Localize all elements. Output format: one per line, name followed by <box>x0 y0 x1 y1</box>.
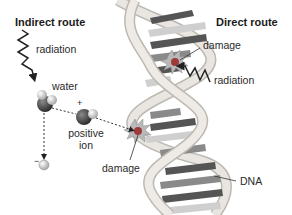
water-molecule <box>37 90 57 112</box>
direct-route-title: Direct route <box>216 16 278 28</box>
minus-sign: − <box>34 157 39 167</box>
water-label: water <box>52 81 78 93</box>
indirect-route-title: Indirect route <box>15 16 85 28</box>
positive-ion-molecule <box>76 109 98 125</box>
radiation-dna-damage-diagram: Indirect route Direct route radiation wa… <box>0 0 292 215</box>
positive-ion-label-line1: positive <box>66 128 106 140</box>
dashed-path-water-to-ion <box>52 108 76 114</box>
radiation-label-indirect: radiation <box>36 44 76 56</box>
positive-ion-label: positive ion <box>66 128 106 151</box>
positive-ion-label-line2: ion <box>66 140 106 152</box>
damage-label-upper: damage <box>203 40 241 52</box>
radiation-wave-indirect <box>18 30 34 78</box>
dna-label: DNA <box>240 176 262 188</box>
radiation-label-direct: radiation <box>214 75 254 87</box>
damage-label-lower: damage <box>102 163 140 175</box>
plus-sign: + <box>77 99 82 109</box>
electron <box>39 160 49 170</box>
dna-helix <box>118 0 226 215</box>
